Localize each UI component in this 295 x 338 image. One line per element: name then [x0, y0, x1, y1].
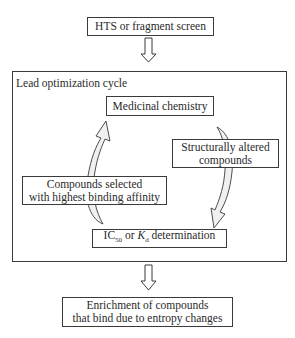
hts-box: HTS or fragment screen	[87, 17, 214, 36]
medicinal-chemistry-label: Medicinal chemistry	[113, 100, 208, 113]
compounds-selected-line1: Compounds selected	[47, 178, 143, 191]
medicinal-chemistry-box: Medicinal chemistry	[106, 96, 214, 116]
compounds-selected-line2: with highest binding affinity	[29, 191, 160, 204]
hts-label: HTS or fragment screen	[95, 20, 206, 33]
down-arrow-icon	[141, 265, 156, 290]
enrichment-line2: that bind due to entropy changes	[73, 312, 223, 325]
determination-label: IC50 or Kd determination	[104, 229, 216, 247]
enrichment-line1: Enrichment of compounds	[86, 299, 208, 312]
structurally-altered-line2: compounds	[199, 154, 252, 167]
lead-optimization-title: Lead optimization cycle	[16, 77, 127, 89]
structurally-altered-box: Structurally altered compounds	[172, 139, 279, 168]
determination-box: IC50 or Kd determination	[92, 229, 227, 248]
enrichment-box: Enrichment of compounds that bind due to…	[62, 297, 233, 327]
compounds-selected-box: Compounds selected with highest binding …	[22, 176, 167, 205]
down-arrow-icon	[141, 38, 156, 62]
structurally-altered-line1: Structurally altered	[181, 141, 269, 154]
